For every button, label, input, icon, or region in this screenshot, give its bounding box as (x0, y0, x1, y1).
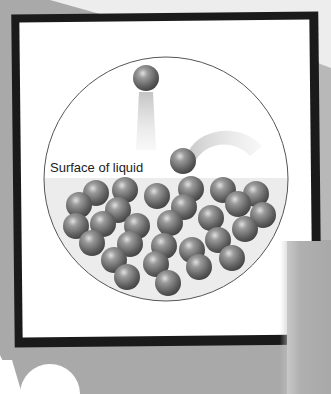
escaping-molecule (170, 148, 196, 174)
liquid-molecule (114, 264, 140, 290)
liquid-molecule (186, 254, 212, 280)
liquid-molecule (155, 270, 181, 296)
liquid-molecule (225, 191, 251, 217)
arc-trail (188, 131, 262, 160)
overlay-gray-block (287, 241, 331, 394)
liquid-molecule (232, 216, 258, 242)
vertical-trail (136, 92, 156, 150)
liquid-molecule (79, 230, 105, 256)
surface-of-liquid-label: Surface of liquid (50, 160, 143, 175)
liquid-molecule (198, 205, 224, 231)
escaping-molecule (133, 65, 159, 91)
liquid-molecule (157, 210, 183, 236)
liquid-molecule (144, 183, 170, 209)
liquid-molecule (219, 245, 245, 271)
